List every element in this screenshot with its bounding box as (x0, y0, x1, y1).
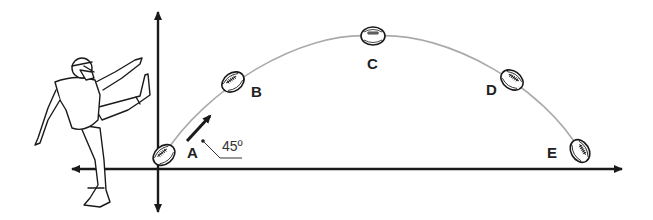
point-label-D: D (486, 81, 497, 98)
launch-direction-arrow (187, 116, 210, 141)
football-D (497, 66, 527, 95)
kicker-figure-icon (35, 58, 150, 207)
point-label-B: B (251, 83, 262, 100)
kick-trajectory-diagram: 45º A B C D E (0, 0, 653, 220)
football-C (361, 27, 385, 45)
point-label-A: A (187, 144, 198, 161)
launch-angle-label: 45º (222, 138, 243, 154)
point-label-E: E (547, 144, 557, 161)
point-label-C: C (367, 55, 378, 72)
football-A (149, 140, 179, 169)
football-E (566, 136, 594, 166)
